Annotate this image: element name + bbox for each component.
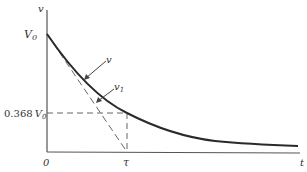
tau-label: τ — [123, 156, 130, 169]
x-axis-label: t — [300, 157, 305, 168]
tangent-label: v1 — [114, 81, 124, 94]
arrowhead-icon — [96, 97, 102, 103]
x-axis — [47, 152, 300, 153]
curve-label: v — [106, 54, 112, 65]
y-axis-label: v — [38, 3, 44, 14]
level-label: 0.368V0 — [4, 108, 47, 121]
decay-diagram: v V0 0.368V0 0 τ t v v1 — [0, 0, 307, 172]
origin-label: 0 — [43, 157, 50, 168]
curve-pointer-arrow — [86, 61, 106, 78]
v0-label: V0 — [24, 28, 37, 42]
